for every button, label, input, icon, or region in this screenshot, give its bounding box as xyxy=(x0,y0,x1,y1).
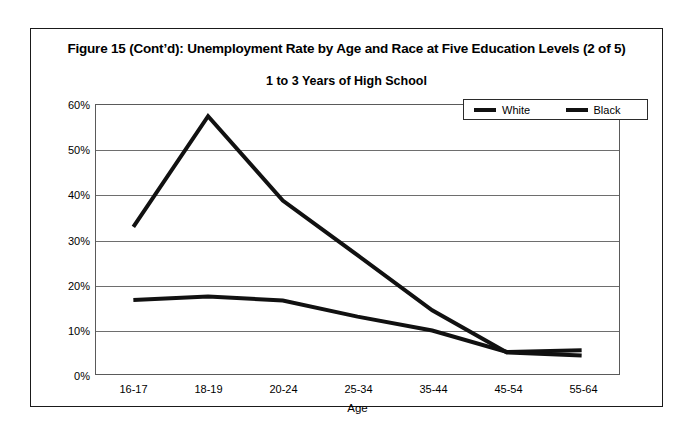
y-axis-tick-label: 50% xyxy=(68,144,90,156)
y-axis-tick-label: 20% xyxy=(68,280,90,292)
y-axis-tick-label: 40% xyxy=(68,189,90,201)
plot-area: 0%10%20%30%40%50%60% 16-1718-1920-2425-3… xyxy=(95,104,620,375)
x-axis-tick-label: 20-24 xyxy=(269,383,297,395)
legend-label-white: White xyxy=(502,104,530,116)
chart-legend: White Black xyxy=(463,99,648,120)
legend-swatch-black-icon xyxy=(566,108,588,112)
series-line-black xyxy=(133,116,581,355)
chart-series-lines xyxy=(96,105,619,374)
x-axis-tick-label: 35-44 xyxy=(419,383,447,395)
x-axis-tick-label: 18-19 xyxy=(194,383,222,395)
x-axis-tick-label: 16-17 xyxy=(119,383,147,395)
legend-swatch-white-icon xyxy=(474,108,496,112)
y-axis-tick-label: 10% xyxy=(68,325,90,337)
series-line-white xyxy=(133,296,581,352)
chart-subtitle: 1 to 3 Years of High School xyxy=(31,74,662,88)
x-axis-tick-label: 25-34 xyxy=(344,383,372,395)
x-axis-title: Age xyxy=(96,402,619,414)
legend-label-black: Black xyxy=(594,104,621,116)
legend-entry-black: Black xyxy=(556,104,648,116)
x-axis-tick-label: 45-54 xyxy=(494,383,522,395)
x-axis-tick-label: 55-64 xyxy=(569,383,597,395)
legend-entry-white: White xyxy=(464,104,556,116)
y-axis-tick-label: 60% xyxy=(68,99,90,111)
y-axis-tick-label: 30% xyxy=(68,235,90,247)
figure-title: Figure 15 (Cont’d): Unemployment Rate by… xyxy=(31,41,662,56)
y-axis-tick-label: 0% xyxy=(74,370,90,382)
figure-container: Figure 15 (Cont’d): Unemployment Rate by… xyxy=(30,28,663,407)
